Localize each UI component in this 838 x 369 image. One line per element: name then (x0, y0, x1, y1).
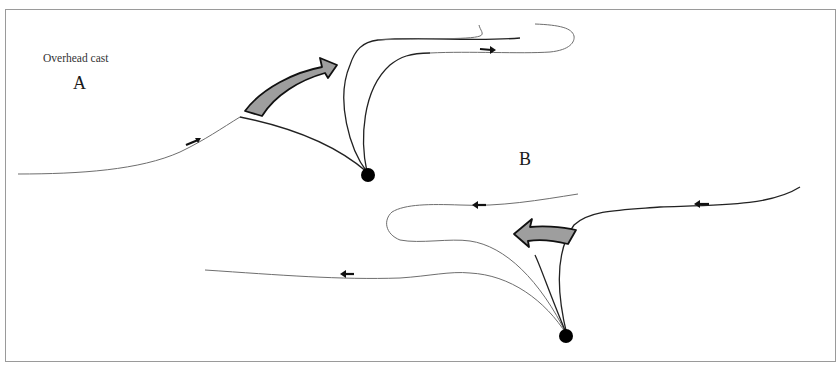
panel-a-drawing (18, 24, 574, 182)
cast-diagram (0, 0, 838, 369)
panel-b-fly-line (205, 270, 567, 335)
panel-a-caster-dot (361, 168, 375, 182)
panel-a-big-arrow (245, 58, 337, 116)
panel-b-rod-1 (535, 255, 567, 335)
panel-a-rod-back (240, 117, 367, 172)
panel-a-fly-line (18, 117, 240, 174)
panel-b-small-arrow-3 (340, 270, 354, 278)
panel-b-drawing (205, 187, 800, 343)
panel-b-small-arrow-2 (694, 200, 709, 208)
panel-b-big-arrow (514, 219, 576, 247)
panel-b-rod-2 (559, 187, 800, 335)
panel-a-rod-forward-2 (364, 53, 430, 172)
panel-a-small-arrow-1 (186, 138, 201, 145)
panel-b-small-arrow-1 (472, 201, 486, 209)
panel-a-rod-forward-1 (344, 38, 520, 172)
panel-b-caster-dot (559, 329, 573, 343)
panel-a-loop-upper (378, 25, 482, 40)
panel-b-loop (387, 194, 578, 335)
